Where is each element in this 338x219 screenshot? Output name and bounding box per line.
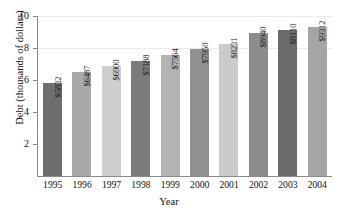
bar: $7950 — [190, 49, 209, 176]
bar-slot: $7188 — [126, 16, 155, 176]
bar-value-label: $9312 — [317, 21, 327, 42]
bar-value-label: $8940 — [258, 26, 268, 47]
bar: $7564 — [161, 55, 180, 176]
bar-value-label: $8231 — [229, 38, 239, 59]
x-tick-label: 2001 — [213, 179, 246, 190]
x-axis-title: Year — [0, 196, 338, 207]
bar-slot: $8940 — [244, 16, 273, 176]
y-tick-label: 8 — [7, 43, 29, 53]
x-tick-label: 1997 — [95, 179, 128, 190]
y-tick-label: 6 — [7, 75, 29, 85]
bar: $5832 — [43, 83, 62, 176]
x-tick-label: 2000 — [183, 179, 216, 190]
y-tick-label: 10 — [7, 11, 29, 21]
bar: $7188 — [131, 61, 150, 176]
x-axis-line — [37, 176, 332, 177]
bar-value-label: $9110 — [288, 24, 298, 45]
x-tick-label: 1998 — [124, 179, 157, 190]
bar-value-label: $5832 — [53, 76, 63, 97]
x-tick-label: 1999 — [154, 179, 187, 190]
bar-slot: $7950 — [185, 16, 214, 176]
bar: $9312 — [308, 27, 327, 176]
y-axis-title: Debt (thousands of dollars) — [14, 0, 25, 143]
bar-slot: $7564 — [156, 16, 185, 176]
bar: $6487 — [72, 72, 91, 176]
bar-slot: $5832 — [38, 16, 67, 176]
x-tick-label: 1996 — [66, 179, 99, 190]
bar: $8940 — [249, 33, 268, 176]
bar-chart: Debt (thousands of dollars) 246810 $5832… — [0, 0, 338, 219]
bar-value-label: $7564 — [170, 48, 180, 69]
bar-slot: $9312 — [303, 16, 332, 176]
x-tick-label: 2004 — [301, 179, 334, 190]
bar-slot: $9110 — [273, 16, 302, 176]
bar-value-label: $7950 — [200, 42, 210, 63]
x-tick-label: 2003 — [271, 179, 304, 190]
bar-series: $5832$6487$6900$7188$7564$7950$8231$8940… — [38, 16, 332, 176]
x-tick-label: 1995 — [36, 179, 69, 190]
plot-area: 246810 $5832$6487$6900$7188$7564$7950$82… — [37, 16, 332, 176]
bar-slot: $6487 — [67, 16, 96, 176]
y-tick-label: 2 — [7, 139, 29, 149]
bar-slot: $6900 — [97, 16, 126, 176]
x-tick-label: 2002 — [242, 179, 275, 190]
bar: $9110 — [278, 30, 297, 176]
bar-value-label: $7188 — [141, 55, 151, 76]
y-tick-label: 4 — [7, 107, 29, 117]
bar: $6900 — [102, 66, 121, 176]
bar-value-label: $6487 — [82, 66, 92, 87]
bar-slot: $8231 — [214, 16, 243, 176]
bar-value-label: $6900 — [111, 59, 121, 80]
bar: $8231 — [219, 44, 238, 176]
